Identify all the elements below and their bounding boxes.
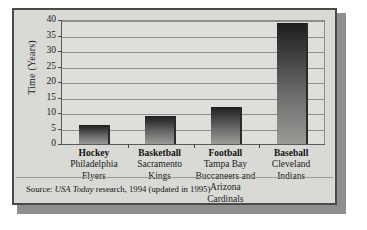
- plot-background: [62, 20, 325, 144]
- category-sport-name: Baseball: [258, 147, 324, 159]
- source-divider: [16, 177, 333, 178]
- y-axis-tick-label: 40: [34, 15, 56, 25]
- category-sport-name: Basketball: [127, 147, 193, 159]
- category-team-name-line: Cleveland: [258, 159, 324, 171]
- category-sport-name: Hockey: [61, 147, 127, 159]
- gridline: [62, 21, 324, 22]
- bar-hockey: [79, 125, 110, 144]
- source-prefix: Source:: [26, 184, 55, 194]
- y-axis-tick-label: 0: [34, 139, 56, 149]
- source-note: Source: USA Today research, 1994 (update…: [26, 184, 210, 194]
- y-axis-tick-label: 20: [34, 77, 56, 87]
- bar-chart: Time (Years) 4035302520151050 HockeyPhil…: [14, 10, 335, 170]
- y-axis-tick-mark: [58, 20, 62, 21]
- category-team-name-line: Tampa Bay: [193, 159, 259, 171]
- y-axis-tick-mark: [58, 113, 62, 114]
- chart-figure: Time (Years) 4035302520151050 HockeyPhil…: [12, 8, 346, 214]
- category-team-name-line: Philadelphia: [61, 159, 127, 171]
- bar-baseball: [277, 23, 308, 144]
- y-axis-tick-labels: 4035302520151050: [34, 20, 56, 144]
- y-axis-tick-mark: [58, 51, 62, 52]
- y-axis-tick-mark: [58, 144, 62, 145]
- y-axis-tick-mark: [58, 36, 62, 37]
- y-axis-tick-label: 30: [34, 46, 56, 56]
- y-axis-tick-mark: [58, 98, 62, 99]
- y-axis-tick-mark: [58, 67, 62, 68]
- y-axis-tick-mark: [58, 129, 62, 130]
- bar-basketball: [145, 116, 176, 144]
- category-sport-name: Football: [193, 147, 259, 159]
- y-axis-tick-mark: [58, 82, 62, 83]
- y-axis-tick-label: 15: [34, 93, 56, 103]
- source-publication: USA Today: [55, 184, 94, 194]
- figure-frame: Time (Years) 4035302520151050 HockeyPhil…: [12, 8, 337, 205]
- source-suffix: research, 1994 (updated in 1995): [94, 184, 211, 194]
- y-axis-tick-label: 25: [34, 62, 56, 72]
- y-axis-tick-label: 35: [34, 31, 56, 41]
- category-team-name-line: Sacramento: [127, 159, 193, 171]
- bar-football: [211, 107, 242, 144]
- category-label-football: FootballTampa BayBuccaneers andArizona C…: [193, 147, 259, 205]
- y-axis-tick-label: 5: [34, 124, 56, 134]
- y-axis-tick-label: 10: [34, 108, 56, 118]
- plot-area: [61, 20, 325, 145]
